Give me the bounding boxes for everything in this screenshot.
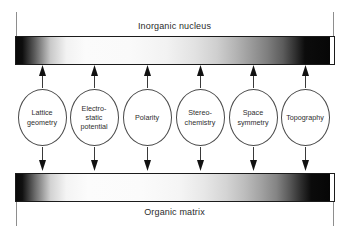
factor-circle-label: Lattice geometry [26,108,58,127]
factor-circle-label: Space symmetry [236,108,269,127]
factor-circle-2[interactable]: Electro- static potential [70,89,119,146]
factor-circle-label: Electro- static potential [79,104,108,132]
organic-matrix-label: Organic matrix [0,207,349,217]
arrow-up-6 [301,65,310,89]
arrow-up-4 [196,65,205,89]
organic-matrix-gradient [16,174,330,201]
inorganic-nucleus-label: Inorganic nucleus [0,21,349,31]
arrow-down-5 [249,147,258,171]
factor-circle-label: Stereo- chemistry [184,108,217,127]
factor-circle-label: Polarity [134,113,160,122]
arrow-up-1 [38,65,47,89]
arrow-up-2 [90,65,99,89]
inorganic-nucleus-bar [15,36,335,65]
inorganic-nucleus-gradient [16,37,330,64]
factor-circle-1[interactable]: Lattice geometry [18,89,67,146]
factor-circle-5[interactable]: Space symmetry [229,89,278,146]
factor-circle-4[interactable]: Stereo- chemistry [176,89,225,146]
arrow-down-2 [90,147,99,171]
arrow-down-6 [301,147,310,171]
arrow-up-3 [143,65,152,89]
arrow-down-4 [196,147,205,171]
organic-matrix-bar [15,173,335,202]
factor-circle-3[interactable]: Polarity [123,89,172,146]
factor-circle-label: Topography [285,113,325,122]
arrow-up-5 [249,65,258,89]
factor-circle-6[interactable]: Topography [281,89,330,146]
arrow-down-3 [143,147,152,171]
biomineralization-interface-diagram: Inorganic nucleus Organic matrix Lattice… [0,0,349,234]
arrow-down-1 [38,147,47,171]
